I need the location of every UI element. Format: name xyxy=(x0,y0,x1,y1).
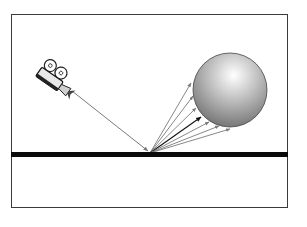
sphere xyxy=(193,53,267,127)
ground-line xyxy=(11,152,288,157)
reflection-diagram xyxy=(0,0,307,227)
